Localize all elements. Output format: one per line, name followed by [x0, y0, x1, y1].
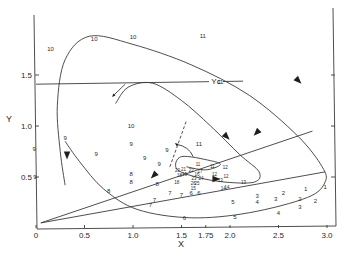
point-label: 6 — [197, 190, 201, 196]
arrowhead-icon — [149, 171, 159, 181]
point-label: 2 — [282, 190, 286, 196]
x-axis-title: X — [178, 239, 184, 249]
point-label: 8 — [129, 171, 133, 177]
x-tick-label: 3.0 — [321, 231, 333, 240]
point-label: 13 — [218, 178, 224, 183]
point-label: 12 — [223, 165, 229, 170]
point-labels-layer: 1010101111109999999988887777666554433322… — [32, 33, 327, 222]
point-label: 10 — [47, 46, 54, 52]
point-label: 9 — [94, 151, 98, 157]
point-label: 11 — [196, 141, 203, 147]
point-label: 7 — [168, 190, 172, 196]
point-label: 11 — [210, 164, 215, 169]
point-label: 1 — [304, 186, 308, 192]
point-label: 19 — [182, 172, 188, 177]
arrowhead-icon — [294, 76, 304, 86]
point-label: 9 — [63, 135, 67, 141]
arrowhead-shape — [64, 152, 70, 160]
point-label: 11 — [196, 162, 201, 167]
point-label: 8 — [129, 179, 133, 185]
arrowhead-shape — [222, 132, 232, 142]
point-label: 13 — [241, 180, 247, 185]
x-tick-label: 1.75 — [198, 231, 214, 240]
x-tick-label: 2.0 — [224, 231, 236, 240]
arrowhead-shape — [149, 171, 159, 181]
y-axis-title: Y — [6, 114, 12, 124]
point-label: 4 — [277, 210, 281, 216]
point-label: 6 — [183, 215, 187, 221]
x-tick-label: 0.5 — [79, 231, 91, 240]
arrowhead-icon — [251, 128, 261, 138]
arrowhead-icon — [64, 152, 70, 160]
point-label: 12 — [212, 172, 218, 177]
reference-lines: Yc — [36, 76, 325, 223]
point-label: 9 — [158, 161, 162, 167]
small-arrow-line — [177, 144, 193, 156]
y-tick-label: 0.5 — [21, 173, 33, 182]
point-label: 12 — [224, 174, 230, 179]
arrowhead-icon — [222, 132, 232, 142]
point-label: 9 — [143, 155, 147, 161]
x-tick-label: 0 — [34, 231, 39, 240]
x-tick-label: 2.5 — [273, 231, 285, 240]
dashed-separatrix — [170, 121, 186, 167]
arrowhead-shape — [294, 76, 304, 86]
point-label: 10 — [130, 34, 137, 40]
axes: 00.51.01.51.752.02.53.00.51.01.5 — [21, 8, 336, 240]
point-label: 2 — [314, 198, 318, 204]
point-label: 5 — [231, 199, 235, 205]
point-label: 3 — [255, 193, 259, 199]
point-label: 4 — [255, 199, 259, 205]
y-tick-label: 1.0 — [21, 122, 33, 131]
point-label: 8 — [156, 181, 160, 187]
y-axis-line — [34, 15, 37, 229]
phase-plot: 00.51.01.51.752.02.53.00.51.01.5 Yc 1010… — [0, 0, 349, 258]
point-label: 11 — [200, 33, 207, 39]
point-label: 2 — [298, 196, 302, 202]
point-label: 11 — [217, 79, 224, 85]
point-label: 8 — [107, 188, 111, 194]
point-label: 1 — [323, 184, 327, 190]
point-label: 3 — [298, 204, 302, 210]
point-label: 15 — [191, 186, 197, 191]
point-label: 10 — [128, 123, 135, 129]
point-label: 18 — [174, 180, 180, 185]
x-axis-line — [37, 226, 336, 229]
y-tick-label: 1.5 — [21, 71, 33, 80]
point-label: 14 — [221, 186, 227, 191]
point-label: 9 — [165, 147, 169, 153]
point-label: 10 — [91, 36, 98, 42]
point-label: 9 — [129, 141, 133, 147]
small-arrow-line — [114, 84, 126, 95]
point-label: 5 — [233, 214, 237, 220]
x-tick-label: 1.0 — [127, 231, 139, 240]
point-label: 3 — [274, 196, 278, 202]
point-label: 22 — [189, 168, 195, 173]
right-frame-line — [333, 8, 336, 226]
arrowhead-shape — [251, 128, 261, 138]
